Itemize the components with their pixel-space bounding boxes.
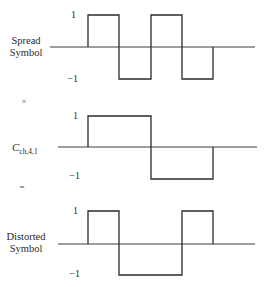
- waveform: [88, 211, 213, 275]
- panel-label-line1: Distorted: [6, 231, 46, 242]
- tick-high-label: 1: [71, 9, 76, 20]
- panel-channel-code: Cch,4,1 1 −1: [12, 110, 257, 181]
- tick-high-label: 1: [73, 110, 78, 121]
- tick-low-label: −1: [69, 268, 80, 279]
- spread-symbol-diagram: Spread Symbol 1 −1 × Cch,4,1 1 −1 = Dist…: [0, 0, 265, 287]
- tick-high-label: 1: [73, 205, 78, 216]
- panel-label: Cch,4,1: [12, 141, 38, 156]
- panel-distorted-symbol: Distorted Symbol 1 −1: [6, 205, 255, 279]
- equals-operator: =: [19, 182, 24, 192]
- panel-spread-symbol: Spread Symbol 1 −1: [10, 9, 255, 84]
- tick-low-label: −1: [69, 170, 80, 181]
- panel-label-line2: Symbol: [10, 47, 43, 58]
- tick-low-label: −1: [67, 73, 78, 84]
- label-subscript: ch,4,1: [19, 147, 38, 156]
- panel-label-line1: Spread: [11, 35, 41, 46]
- diagram-canvas: Spread Symbol 1 −1 × Cch,4,1 1 −1 = Dist…: [0, 0, 265, 287]
- multiply-operator: ×: [21, 96, 26, 106]
- panel-label-line2: Symbol: [10, 243, 43, 254]
